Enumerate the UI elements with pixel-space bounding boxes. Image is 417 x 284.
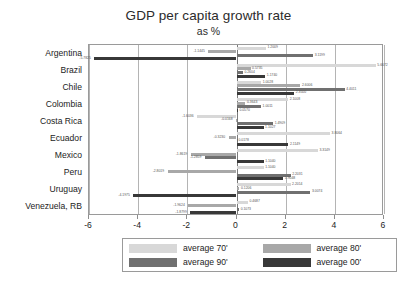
bar	[133, 194, 236, 197]
y-axis-label-mexico: Mexico	[55, 150, 82, 160]
bar-value-label: 0.1073	[241, 208, 251, 211]
x-axis-tick	[285, 215, 286, 219]
x-axis-tick-label: -6	[84, 220, 92, 230]
bar	[237, 71, 243, 74]
bar-value-label: 1.1740	[267, 74, 277, 77]
legend-item[interactable]: average 00'	[263, 257, 391, 267]
legend-label: average 80'	[317, 243, 362, 253]
bar	[237, 201, 249, 204]
bar-value-label: 1.0011	[263, 105, 273, 108]
bar-value-label: 5.6672	[377, 64, 387, 67]
bar	[208, 50, 236, 53]
bar-value-label: -4.1975	[118, 194, 130, 197]
bar-value-label: -1.2859	[190, 156, 202, 159]
x-axis-tick-label: 4	[331, 220, 336, 230]
legend-label: average 00'	[317, 257, 362, 267]
bar-group: 0.4687-1.96240.1073-1.8799	[89, 199, 382, 216]
bar-group: 2.10080.36431.00110.0570	[89, 96, 382, 113]
bar-value-label: 2.3500	[296, 91, 306, 94]
bar	[237, 187, 240, 190]
bar-value-label: -5.7825	[79, 57, 91, 60]
legend-item[interactable]: average 70'	[129, 243, 257, 253]
bar	[205, 156, 237, 159]
chart-legend: average 70'average 80'average 90'average…	[122, 238, 397, 272]
bar-group: 1.00282.60064.40112.3500	[89, 79, 382, 96]
bar-value-label: -0.0168	[221, 118, 233, 121]
x-axis: -6-4-20246	[88, 215, 383, 235]
legend-swatch-icon	[129, 244, 177, 253]
y-axis-label-costa-rica: Costa Rica	[40, 116, 82, 126]
x-axis-tick	[383, 215, 384, 219]
bar	[237, 54, 314, 57]
bar-value-label: 0.0178	[238, 139, 248, 142]
legend-item[interactable]: average 80'	[263, 243, 391, 253]
x-axis-tick-label: -4	[133, 220, 141, 230]
y-axis-category-labels: ArgentinaBrazilChileColombiaCosta RicaEc…	[0, 44, 84, 215]
bar-value-label: 1.9048	[285, 177, 295, 180]
bar-value-label: 1.2009	[268, 46, 278, 49]
bar-value-label: 2.1008	[290, 98, 300, 101]
bar	[237, 109, 238, 112]
bar	[237, 84, 301, 87]
plot-area: 1.2009-1.14453.1199-5.78255.66720.57350.…	[88, 44, 383, 215]
bar-value-label: 0.1206	[241, 187, 251, 190]
bar-value-label: -1.8619	[176, 153, 188, 156]
bar	[237, 166, 264, 169]
bar-value-label: -1.1445	[193, 50, 205, 53]
bar	[237, 102, 246, 105]
bar-value-label: 1.1040	[265, 160, 275, 163]
bar-value-label: 1.1040	[265, 166, 275, 169]
x-axis-tick	[137, 215, 138, 219]
bar	[237, 126, 264, 129]
bar	[94, 57, 236, 60]
bar-value-label: -1.6036	[182, 115, 194, 118]
bar-value-label: 1.0028	[263, 81, 273, 84]
legend-swatch-icon	[129, 258, 177, 267]
chart-subtitle: as %	[0, 25, 417, 37]
x-axis-tick	[334, 215, 335, 219]
bar-group: 3.8064-0.32300.01782.1149	[89, 131, 382, 148]
bar-group: 1.1040-2.80192.20311.9048	[89, 165, 382, 182]
bar	[237, 149, 318, 152]
bar-group: 5.66720.57350.26041.1740	[89, 62, 382, 79]
bar-value-label: -1.9624	[173, 204, 185, 207]
bar	[237, 177, 284, 180]
bar	[188, 204, 236, 207]
bar	[237, 208, 240, 211]
legend-item[interactable]: average 90'	[129, 257, 257, 267]
bar-value-label: 1.1027	[265, 126, 275, 129]
bar-group: 2.20140.12063.0074-4.1975	[89, 182, 382, 199]
bar-group: -1.6036-0.01681.49091.1027	[89, 113, 382, 130]
bar	[236, 119, 237, 122]
y-axis-label-peru: Peru	[64, 167, 82, 177]
bar	[237, 98, 289, 101]
x-axis-tick	[88, 215, 89, 219]
bar	[237, 88, 345, 91]
bar-value-label: 3.3149	[319, 149, 329, 152]
bar	[168, 170, 237, 173]
bar	[237, 191, 311, 194]
y-axis-label-chile: Chile	[62, 82, 82, 92]
bar-value-label: -2.8019	[153, 170, 165, 173]
x-axis-tick-label: 0	[233, 220, 238, 230]
bar-value-label: 0.3643	[247, 101, 257, 104]
bar-value-label: 2.1149	[290, 143, 300, 146]
bar-value-label: 0.0570	[239, 109, 249, 112]
bar-value-label: 1.4909	[275, 122, 285, 125]
x-axis-tick	[236, 215, 237, 219]
gridline	[384, 45, 385, 214]
chart-page: GDP per capita growth rate as % Argentin…	[0, 0, 417, 284]
bar	[237, 75, 266, 78]
x-axis-tick	[186, 215, 187, 219]
bar	[237, 143, 289, 146]
bar-value-label: 2.2014	[292, 183, 302, 186]
y-axis-label-brazil: Brazil	[61, 65, 83, 75]
y-axis-label-argentina: Argentina	[45, 48, 82, 58]
legend-label: average 70'	[183, 243, 228, 253]
bar-group: 3.3149-1.8619-1.28591.1040	[89, 148, 382, 165]
bar-value-label: 3.0074	[312, 190, 322, 193]
bar	[237, 132, 331, 135]
bar-value-label: -1.8799	[175, 211, 187, 214]
x-axis-tick-label: 6	[381, 220, 386, 230]
y-axis-label-uruguay: Uruguay	[50, 184, 82, 194]
